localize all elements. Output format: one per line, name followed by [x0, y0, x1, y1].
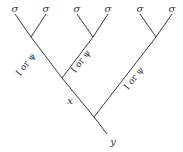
root-label-y: y — [109, 136, 116, 147]
leaf-label-3: σ — [74, 3, 82, 14]
tree-diagram: σ σ σ σ σ σ I or ψ I or ψ I or ψ x y — [0, 0, 183, 152]
edge-leaf2 — [31, 14, 46, 37]
edge-label-middle: I or ψ — [69, 48, 93, 75]
leaf-label-1: σ — [12, 3, 20, 14]
internal-label-x: x — [67, 95, 73, 106]
edge-label-right: I or ψ — [122, 65, 146, 92]
edge-root-out — [94, 117, 107, 134]
edge-leaf3 — [77, 14, 93, 37]
edge-labels: I or ψ I or ψ I or ψ — [14, 48, 146, 92]
leaf-label-6: σ — [169, 3, 177, 14]
edge-leaf5 — [140, 14, 156, 37]
tree-edges — [15, 14, 172, 134]
edge-leaf6 — [156, 14, 172, 37]
edge-label-left: I or ψ — [14, 51, 38, 78]
edge-leaf4 — [93, 14, 108, 37]
edge-leaf1 — [15, 14, 31, 37]
edge-right-pair-to-root — [94, 37, 156, 117]
leaf-labels: σ σ σ σ σ σ — [12, 3, 177, 14]
leaf-label-2: σ — [43, 3, 51, 14]
leaf-label-5: σ — [137, 3, 145, 14]
leaf-label-4: σ — [105, 3, 113, 14]
